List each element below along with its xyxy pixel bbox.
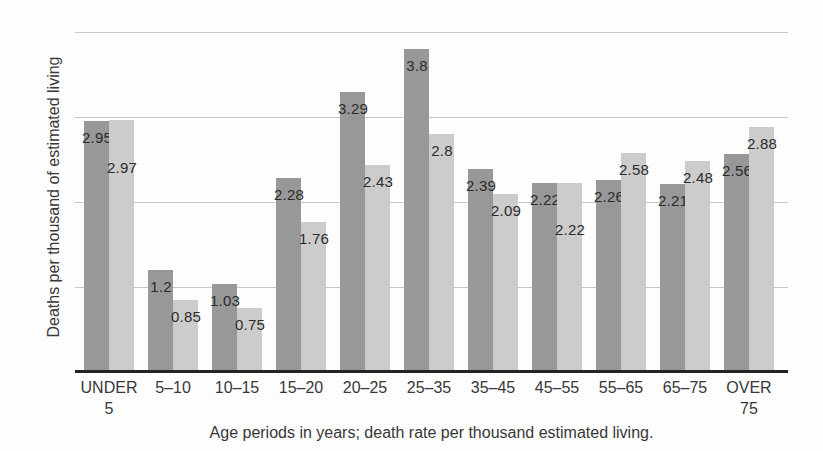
bar-light-gray-series-4555 bbox=[557, 183, 582, 371]
bar-light-gray-series-6575 bbox=[685, 161, 710, 371]
value-label-light-gray-series-over-75: 2.88 bbox=[738, 135, 786, 152]
bar-dark-gray-series-3545 bbox=[468, 169, 493, 371]
bar-dark-gray-series-6575 bbox=[660, 184, 685, 371]
bar-dark-gray-series-2025 bbox=[340, 92, 365, 371]
x-axis-line bbox=[75, 370, 788, 373]
bar-dark-gray-series-1520 bbox=[276, 178, 301, 371]
bar-light-gray-series-2025 bbox=[365, 165, 390, 371]
bar-dark-gray-series-over-75 bbox=[724, 154, 749, 371]
x-tick-2535: 25–35 bbox=[395, 378, 463, 399]
value-label-light-gray-series-under-5: 2.97 bbox=[98, 159, 146, 176]
value-label-light-gray-series-1015: 0.75 bbox=[226, 316, 274, 333]
bar-dark-gray-series-5565 bbox=[596, 180, 621, 371]
x-tick-5565: 55–65 bbox=[587, 378, 655, 399]
bar-light-gray-series-under-5 bbox=[109, 120, 134, 371]
value-label-light-gray-series-2025: 2.43 bbox=[354, 173, 402, 190]
value-label-light-gray-series-4555: 2.22 bbox=[546, 221, 594, 238]
death-rate-bar-chart: Deaths per thousand of estimated living … bbox=[0, 0, 823, 451]
bar-dark-gray-series-2535 bbox=[404, 49, 429, 371]
value-label-dark-gray-series-1015: 1.03 bbox=[201, 292, 249, 309]
x-tick-3545: 35–45 bbox=[459, 378, 527, 399]
value-label-light-gray-series-510: 0.85 bbox=[162, 308, 210, 325]
bar-dark-gray-series-4555 bbox=[532, 183, 557, 371]
x-tick-6575: 65–75 bbox=[651, 378, 719, 399]
value-label-light-gray-series-5565: 2.58 bbox=[610, 161, 658, 178]
value-label-light-gray-series-1520: 1.76 bbox=[290, 230, 338, 247]
value-label-dark-gray-series-3545: 2.39 bbox=[457, 177, 505, 194]
value-label-dark-gray-series-2025: 3.29 bbox=[329, 100, 377, 117]
gridline-y-3 bbox=[75, 117, 788, 118]
value-label-dark-gray-series-510: 1.2 bbox=[137, 278, 185, 295]
bar-light-gray-series-3545 bbox=[493, 194, 518, 371]
value-label-light-gray-series-2535: 2.8 bbox=[418, 142, 466, 159]
x-tick-1520: 15–20 bbox=[267, 378, 335, 399]
scanned-bar-chart-page: Deaths per thousand of estimated living … bbox=[0, 0, 823, 451]
gridline-y-4 bbox=[75, 32, 788, 33]
value-label-dark-gray-series-1520: 2.28 bbox=[265, 186, 313, 203]
x-tick-1015: 10–15 bbox=[203, 378, 271, 399]
bar-light-gray-series-2535 bbox=[429, 134, 454, 371]
x-tick-over-75: OVER 75 bbox=[715, 378, 783, 420]
y-axis-title: Deaths per thousand of estimated living bbox=[45, 17, 67, 377]
x-tick-4555: 45–55 bbox=[523, 378, 591, 399]
bar-light-gray-series-over-75 bbox=[749, 127, 774, 371]
x-tick-under-5: UNDER 5 bbox=[75, 378, 143, 420]
x-tick-510: 5–10 bbox=[139, 378, 207, 399]
x-tick-2025: 20–25 bbox=[331, 378, 399, 399]
bar-light-gray-series-5565 bbox=[621, 153, 646, 371]
x-axis-title: Age periods in years; death rate per tho… bbox=[75, 424, 788, 442]
value-label-dark-gray-series-2535: 3.8 bbox=[393, 57, 441, 74]
